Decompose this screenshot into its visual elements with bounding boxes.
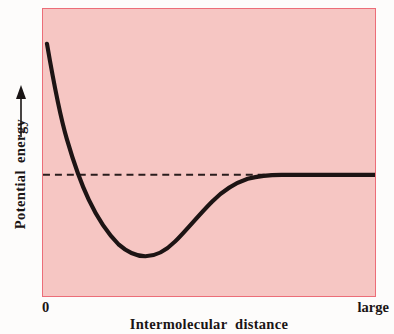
potential-energy-figure: Potential energy 0 large Intermolecular … [0,0,394,334]
y-axis-title: Potential energy [9,91,31,257]
x-axis-title: Intermolecular distance [42,316,376,333]
x-axis-tick-min: 0 [42,299,49,316]
plot-area [43,9,375,296]
y-axis-group: Potential energy [0,85,40,280]
x-axis-tick-max: large [358,299,389,316]
potential-energy-curve [47,44,375,257]
plot-panel [42,8,376,297]
